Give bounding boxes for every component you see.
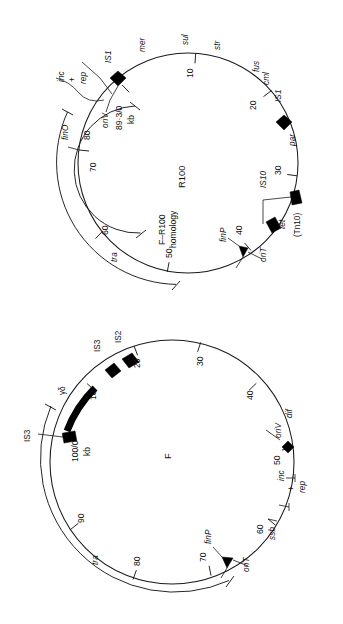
r100-label-is1-top: IS1 <box>104 50 113 63</box>
f-label-oriv: oriV <box>274 422 283 438</box>
f-tick-10: 10 <box>88 390 98 400</box>
f-label-tra: tra <box>91 555 100 565</box>
f-label-inc: inc <box>277 470 286 481</box>
f-tick-30: 30 <box>195 356 205 366</box>
f-tick-20: 20 <box>132 358 142 368</box>
figure-background <box>0 0 343 624</box>
r100-tick-40: 40 <box>234 225 244 235</box>
r100-tick-70: 70 <box>88 162 98 172</box>
r100-tick-60: 60 <box>100 225 110 235</box>
r100-label-orit: oriT <box>259 247 268 262</box>
r100-tick-20: 20 <box>248 100 258 110</box>
r100-label-tn10: (Tn10) <box>293 213 302 237</box>
r100-label-sul: sul <box>181 34 190 45</box>
r100-origin-label: 89·3/0 <box>114 105 124 130</box>
f-tick-90: 90 <box>76 513 86 523</box>
r100-label-mer: mer <box>138 37 147 52</box>
f-label-rep: rep <box>298 481 307 493</box>
r100-homology-label-2: homology <box>168 210 178 248</box>
f-unit-label: kb <box>82 447 92 456</box>
f-label-is2: IS2 <box>114 330 123 343</box>
f-label-ssb: ssb <box>268 527 277 540</box>
r100-label-cml: cml <box>262 72 271 85</box>
f-origin-label: 100/0 <box>70 440 80 462</box>
r100-label-inc: inc <box>57 71 66 82</box>
r100-label-fino: finO <box>61 124 70 140</box>
f-label-orit: oriT <box>242 557 251 572</box>
figure-canvas: IS1 mer sul str fus cml IS1 par IS10 tet… <box>0 0 343 624</box>
f-label-gammadelta: γδ <box>58 386 67 395</box>
r100-label-tet: tet <box>278 219 287 229</box>
r100-label-fus: fus <box>252 61 261 72</box>
r100-unit-label: kb <box>126 115 136 124</box>
f-label-dif: dif <box>285 408 294 418</box>
r100-label-str: str <box>213 40 222 50</box>
f-tick-70: 70 <box>198 552 208 562</box>
r100-tick-80: 80 <box>82 130 92 140</box>
f-label-finp: finP <box>204 529 213 544</box>
r100-tick-10: 10 <box>185 68 195 78</box>
r100-tick-30: 30 <box>273 165 283 175</box>
r100-center-label: R100 <box>176 166 187 188</box>
f-label-is3-left: IS3 <box>23 429 32 442</box>
r100-label-finp: finP <box>219 227 228 242</box>
f-tick-60: 60 <box>255 524 265 534</box>
f-tick-80: 80 <box>132 556 142 566</box>
plasmid-map-figure: IS1 mer sul str fus cml IS1 par IS10 tet… <box>0 0 343 624</box>
f-label-is3-top: IS3 <box>93 339 102 352</box>
r100-label-tra: tra <box>110 252 119 262</box>
f-label-plus: + <box>287 486 296 491</box>
f-center-label: F <box>162 453 173 459</box>
r100-label-is1-right: IS1 <box>274 89 283 102</box>
f-tick-50: 50 <box>272 455 282 465</box>
r100-label-plus: + <box>68 77 77 82</box>
r100-label-oriv: oriV <box>101 112 110 128</box>
r100-tick-50: 50 <box>164 248 174 258</box>
r100-label-rep: rep <box>79 72 88 84</box>
r100-label-par: par <box>288 134 297 147</box>
f-tick-40: 40 <box>245 390 255 400</box>
r100-label-is10: IS10 <box>259 170 268 188</box>
r100-homology-label-1: F–R100 <box>157 214 167 245</box>
